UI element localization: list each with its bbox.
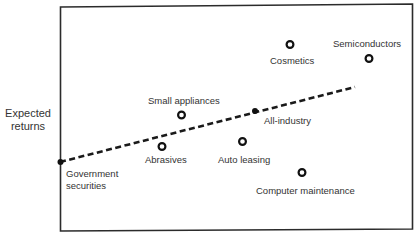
government-securities-label-line1: Government bbox=[66, 168, 118, 180]
semiconductors-label: Semiconductors bbox=[333, 38, 401, 50]
y-axis-label-line1: Expected bbox=[0, 107, 56, 120]
computer-maintenance-marker bbox=[299, 169, 306, 176]
y-axis-label: Expected returns bbox=[0, 107, 56, 133]
government-securities-label-line2: securities bbox=[66, 180, 118, 192]
cosmetics-label: Cosmetics bbox=[270, 55, 314, 67]
all-industry-label: All-industry bbox=[264, 115, 311, 127]
computer-maintenance-label: Computer maintenance bbox=[256, 185, 355, 197]
small-appliances-marker bbox=[178, 112, 185, 119]
all-industry-dot bbox=[252, 108, 258, 114]
government-securities-dot bbox=[58, 159, 64, 165]
abrasives-label: Abrasives bbox=[145, 154, 187, 166]
auto-leasing-label: Auto leasing bbox=[218, 154, 270, 166]
government-securities-label: Government securities bbox=[66, 168, 118, 192]
small-appliances-label: Small appliances bbox=[148, 95, 220, 107]
semiconductors-marker bbox=[366, 55, 373, 62]
cosmetics-marker bbox=[287, 41, 294, 48]
y-axis-label-line2: returns bbox=[0, 120, 56, 133]
auto-leasing-marker bbox=[239, 138, 246, 145]
abrasives-marker bbox=[159, 143, 166, 150]
chart-canvas bbox=[0, 0, 416, 242]
